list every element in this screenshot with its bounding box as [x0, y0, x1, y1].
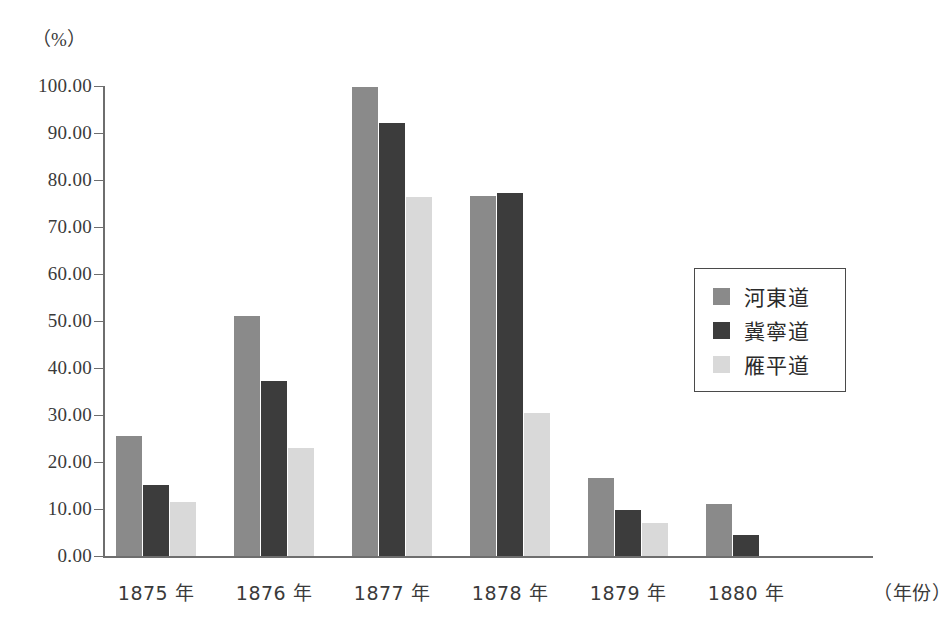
- y-axis-unit-label: （%）: [32, 24, 86, 51]
- y-axis-tick-label: 50.00: [48, 310, 92, 332]
- y-axis-tick-label: 70.00: [48, 216, 92, 238]
- x-axis-title: （年份）: [873, 578, 943, 605]
- x-axis-tick-label: 1878 年: [472, 578, 548, 605]
- legend-item[interactable]: 冀寧道: [713, 313, 845, 347]
- legend-label: 冀寧道: [744, 315, 810, 345]
- bar: [497, 193, 523, 556]
- y-axis-tick-label: 40.00: [48, 357, 92, 379]
- y-axis-tick-label: 80.00: [48, 169, 92, 191]
- y-axis-tick: [94, 133, 103, 134]
- bar: [261, 381, 287, 556]
- y-axis-tick: [94, 274, 103, 275]
- y-axis-tick: [94, 321, 103, 322]
- legend-swatch-icon: [713, 288, 730, 305]
- x-axis-tick-label: 1880 年: [708, 578, 784, 605]
- y-axis-tick-label: 20.00: [48, 451, 92, 473]
- x-axis-labels: （年份） 1875 年1876 年1877 年1878 年1879 年1880 …: [103, 578, 890, 610]
- y-axis-tick-label: 90.00: [48, 122, 92, 144]
- legend-label: 雁平道: [744, 349, 810, 379]
- y-axis-tick: [94, 509, 103, 510]
- legend-item[interactable]: 雁平道: [713, 347, 845, 381]
- bar: [234, 316, 260, 556]
- y-axis-tick-label: 60.00: [48, 263, 92, 285]
- y-axis-tick: [94, 368, 103, 369]
- legend-swatch-icon: [713, 356, 730, 373]
- legend: 河東道冀寧道雁平道: [694, 268, 846, 392]
- y-axis-tick: [94, 180, 103, 181]
- y-axis-tick-label: 100.00: [38, 75, 92, 97]
- y-axis-tick: [94, 556, 103, 557]
- legend-label: 河東道: [744, 281, 810, 311]
- x-axis-tick-label: 1879 年: [590, 578, 666, 605]
- bar: [470, 196, 496, 556]
- legend-item[interactable]: 河東道: [713, 279, 845, 313]
- x-axis-line: [103, 556, 873, 558]
- y-axis-tick-label: 0.00: [58, 545, 92, 567]
- bar: [406, 197, 432, 556]
- y-axis-tick: [94, 227, 103, 228]
- x-axis-tick-label: 1877 年: [354, 578, 430, 605]
- y-axis-tick: [94, 86, 103, 87]
- bar: [588, 478, 614, 556]
- y-axis-tick: [94, 462, 103, 463]
- x-axis-tick-label: 1875 年: [118, 578, 194, 605]
- y-axis-tick-label: 10.00: [48, 498, 92, 520]
- bar: [642, 523, 668, 556]
- bar: [143, 485, 169, 556]
- bar: [288, 448, 314, 556]
- y-axis-tick-label: 30.00: [48, 404, 92, 426]
- bar: [116, 436, 142, 556]
- bar: [733, 535, 759, 556]
- bar: [379, 123, 405, 556]
- bar: [170, 502, 196, 556]
- bar: [524, 413, 550, 556]
- legend-swatch-icon: [713, 322, 730, 339]
- y-axis-tick: [94, 415, 103, 416]
- bar: [352, 87, 378, 556]
- bar: [706, 504, 732, 556]
- x-axis-tick-label: 1876 年: [236, 578, 312, 605]
- bar: [615, 510, 641, 556]
